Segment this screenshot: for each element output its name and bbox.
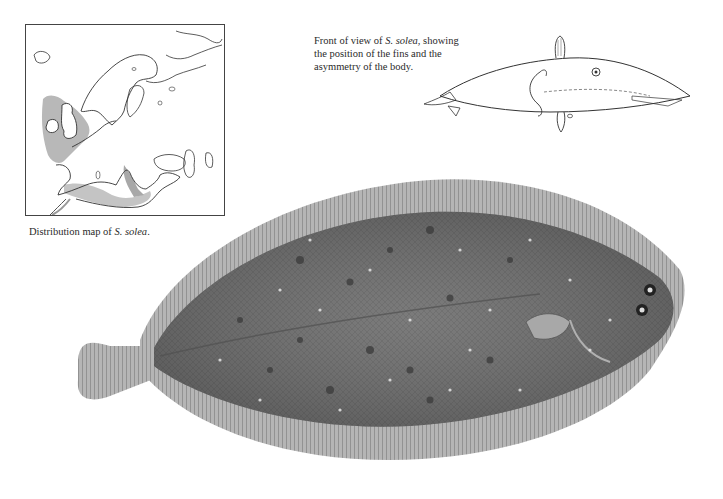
sole-front-view-illustration (420, 34, 710, 134)
front-view-drawing (420, 34, 710, 138)
sole-illustration (70, 170, 700, 474)
front-caption-species: S. solea (385, 35, 418, 46)
front-caption-text: Front of view of (314, 35, 385, 46)
sole-fish-illustration (70, 170, 700, 470)
